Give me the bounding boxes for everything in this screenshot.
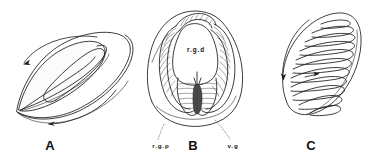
panel-a-letter: A	[45, 138, 55, 153]
panel-b-letter: B	[188, 138, 198, 153]
figure-canvas: A	[0, 0, 370, 162]
panel-b-label-rgd: r.g.d	[187, 46, 205, 54]
figure-container: A	[0, 0, 370, 162]
panel-c-letter: C	[306, 138, 316, 153]
panel-b-label-rgp: r.g.p	[152, 142, 170, 149]
panel-b-ventral-groove	[193, 84, 202, 114]
panel-b-label-vg: v.g	[227, 142, 238, 149]
